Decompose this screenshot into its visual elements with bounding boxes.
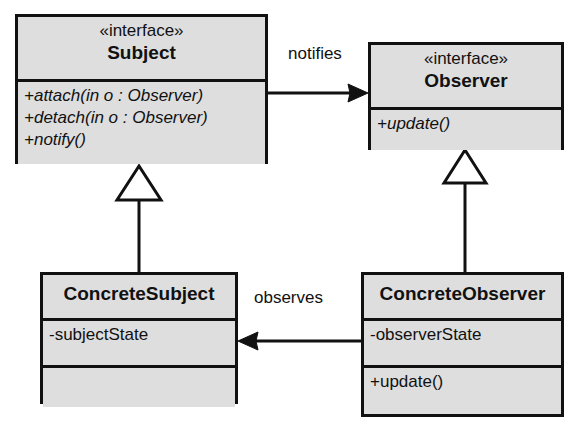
observer-operations-compartment: +update() [371, 107, 561, 150]
observer-generalization-connector [444, 150, 486, 272]
concrete-observer-attributes-compartment: -observerState [364, 318, 561, 365]
observer-class-name: Observer [375, 69, 557, 92]
concrete-subject-header-compartment: ConcreteSubject [43, 275, 235, 318]
class-box-subject[interactable]: «interface» Subject +attach(in o : Obser… [15, 14, 268, 164]
concrete-subject-class-name: ConcreteSubject [47, 282, 231, 305]
subject-operations-compartment: +attach(in o : Observer) +detach(in o : … [18, 79, 265, 164]
concrete-observer-class-name: ConcreteObserver [368, 282, 557, 305]
class-box-concrete-observer[interactable]: ConcreteObserver -observerState +update(… [361, 272, 564, 417]
concrete-observer-attribute-observer-state: -observerState [370, 324, 555, 346]
subject-operation-detach: +detach(in o : Observer) [24, 107, 259, 129]
relationship-label-notifies: notifies [286, 44, 344, 64]
notifies-connector [268, 84, 368, 102]
subject-header-compartment: «interface» Subject [18, 17, 265, 79]
observer-operation-update: +update() [377, 113, 555, 135]
concrete-subject-attributes-compartment: -subjectState [43, 318, 235, 365]
observes-connector [238, 332, 361, 350]
concrete-observer-operation-update: +update() [370, 371, 555, 393]
subject-generalization-connector [117, 166, 161, 272]
class-box-observer[interactable]: «interface» Observer +update() [368, 42, 564, 150]
subject-operation-notify: +notify() [24, 129, 259, 151]
class-box-concrete-subject[interactable]: ConcreteSubject -subjectState [40, 272, 238, 404]
subject-stereotype: «interface» [22, 21, 261, 41]
concrete-subject-attribute-subject-state: -subjectState [49, 324, 229, 346]
concrete-observer-header-compartment: ConcreteObserver [364, 275, 561, 318]
concrete-subject-operations-compartment [43, 365, 235, 407]
observes-arrowhead [238, 332, 258, 350]
notifies-arrowhead [348, 84, 368, 102]
uml-class-diagram: «interface» Subject +attach(in o : Obser… [0, 0, 577, 440]
relationship-label-observes: observes [252, 288, 325, 308]
subject-operation-attach: +attach(in o : Observer) [24, 85, 259, 107]
concrete-observer-operations-compartment: +update() [364, 365, 561, 414]
subject-class-name: Subject [22, 41, 261, 64]
observer-generalization-triangle [444, 150, 486, 183]
observer-stereotype: «interface» [375, 49, 557, 69]
observer-header-compartment: «interface» Observer [371, 45, 561, 107]
subject-generalization-triangle [117, 166, 161, 200]
